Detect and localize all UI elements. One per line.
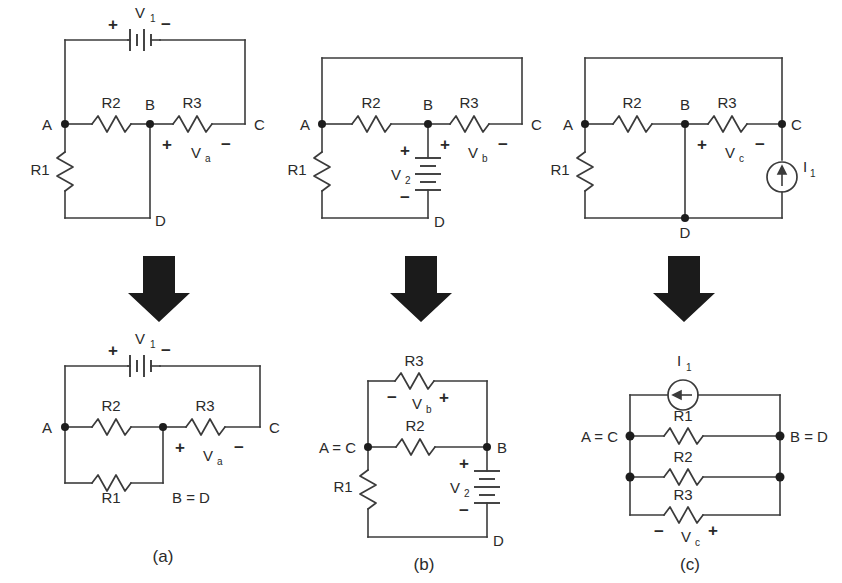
resistor-r1-label-after-b: R1 — [333, 478, 352, 495]
vc-minus-sign-after: − — [654, 522, 664, 541]
node-label-d-c: D — [680, 224, 691, 241]
battery-v1-label-after: V — [135, 330, 145, 347]
vb-subscript: b — [482, 153, 488, 164]
battery-v2-label: V — [391, 166, 401, 183]
node-label-c-after: C — [269, 419, 280, 436]
node-ac-dot-after-c — [626, 432, 635, 441]
node-a-dot-c — [581, 120, 589, 128]
vb-plus-sign: + — [440, 135, 450, 154]
resistor-r1-label-after-c: R1 — [673, 407, 692, 424]
node-b-dot-after-b — [483, 443, 491, 451]
node-label-c-b: C — [531, 116, 542, 133]
node-bd-dot-after — [159, 423, 167, 431]
resistor-r3-label-after: R3 — [195, 397, 214, 414]
node-label-b: B — [145, 96, 155, 113]
node-label-bd-after: B = D — [172, 489, 210, 506]
vb-label-after: V — [412, 395, 422, 412]
circuit-figure-canvas: + V 1 − A B C D R2 R3 R1 — [0, 0, 842, 583]
battery-v1-minus-sign-after: − — [161, 341, 171, 360]
resistor-r2-label-c: R2 — [622, 94, 641, 111]
va-plus-sign: + — [162, 135, 172, 154]
vc-subscript: c — [739, 153, 744, 164]
node-a-dot — [61, 120, 69, 128]
resistor-r2-label-after: R2 — [101, 397, 120, 414]
node-bd-dot-after-c — [776, 432, 785, 441]
node-b-dot-c — [681, 120, 689, 128]
current-source-i1-symbol — [767, 162, 797, 192]
panel-label-c: (c) — [680, 555, 700, 574]
resistor-r2-label-after-c: R2 — [673, 448, 692, 465]
node-bd-dot2-after-c — [776, 473, 785, 482]
node-label-a-c: A — [563, 116, 573, 133]
va-minus-sign: − — [221, 135, 231, 154]
battery-v2-label-after: V — [450, 479, 460, 496]
va-subscript-after: a — [217, 456, 223, 467]
node-label-ac-after-b: A = C — [319, 439, 356, 456]
node-label-ac-after-c: A = C — [581, 428, 618, 445]
resistor-r3-label: R3 — [182, 94, 201, 111]
vc-label: V — [725, 144, 735, 161]
battery-v2-minus-sign-after: − — [459, 501, 469, 520]
current-source-i1-subscript: 1 — [810, 168, 816, 179]
panel-label-b: (b) — [414, 555, 435, 574]
resistor-r1-label-c: R1 — [550, 161, 569, 178]
node-label-c: C — [254, 116, 265, 133]
battery-v1-minus-sign: − — [161, 15, 171, 34]
battery-v1-label: V — [135, 4, 145, 21]
va-subscript: a — [205, 153, 211, 164]
vc-subscript-after: c — [695, 537, 700, 548]
vc-plus-sign: + — [697, 135, 707, 154]
node-label-b-c: B — [680, 96, 690, 113]
vb-subscript-after: b — [426, 404, 432, 415]
battery-v1-subscript: 1 — [150, 13, 156, 24]
current-source-i1-label-after: I — [677, 352, 681, 369]
node-a-dot-after — [61, 423, 69, 431]
current-source-i1-symbol-after — [668, 380, 698, 410]
resistor-r2-label-b: R2 — [361, 94, 380, 111]
node-c-dot-c — [778, 120, 786, 128]
node-b-dot-b — [424, 120, 432, 128]
node-d-dot-c — [681, 214, 689, 222]
battery-v1-plus-sign: + — [108, 15, 118, 34]
va-label-after: V — [203, 447, 213, 464]
battery-v2-subscript-after: 2 — [464, 488, 470, 499]
node-label-a-after: A — [42, 419, 52, 436]
resistor-r1-label-b: R1 — [287, 161, 306, 178]
resistor-r3-label-c: R3 — [717, 94, 736, 111]
current-source-i1-subscript-after: 1 — [686, 362, 692, 373]
vc-label-after: V — [681, 528, 691, 545]
battery-v2-plus-sign-after: + — [459, 454, 469, 473]
vb-plus-sign-after: + — [439, 388, 449, 407]
node-label-bd-after-c: B = D — [790, 428, 828, 445]
va-label: V — [191, 144, 201, 161]
battery-v1-plus-sign-after: + — [108, 341, 118, 360]
vc-plus-sign-after: + — [708, 521, 718, 540]
vc-minus-sign: − — [755, 135, 765, 154]
node-label-b-after-b: B — [497, 439, 507, 456]
node-label-b-b: B — [423, 96, 433, 113]
va-plus-sign-after: + — [175, 438, 185, 457]
node-b-dot — [146, 120, 154, 128]
circuit-figure: + V 1 − A B C D R2 R3 R1 — [0, 0, 842, 583]
node-label-d: D — [155, 212, 166, 229]
battery-v2-plus-sign: + — [400, 141, 410, 160]
node-a-dot-b — [318, 120, 326, 128]
current-source-i1-label: I — [803, 158, 807, 175]
battery-v1-subscript-after: 1 — [150, 339, 156, 350]
battery-v2-minus-sign: − — [400, 188, 410, 207]
resistor-r1-label: R1 — [30, 161, 49, 178]
resistor-r3-label-after-c: R3 — [673, 486, 692, 503]
node-label-c-c: C — [791, 116, 802, 133]
vb-label: V — [468, 144, 478, 161]
resistor-r1-label-after: R1 — [101, 489, 120, 506]
node-ac-dot-after-b — [364, 443, 372, 451]
resistor-r2-label-after-b: R2 — [405, 417, 424, 434]
vb-minus-sign-after: − — [387, 388, 397, 407]
node-label-a-b: A — [300, 116, 310, 133]
resistor-r3-label-after-b: R3 — [404, 352, 423, 369]
va-minus-sign-after: − — [234, 438, 244, 457]
vb-minus-sign: − — [498, 135, 508, 154]
node-label-a: A — [42, 116, 52, 133]
node-label-d-after-b: D — [493, 532, 504, 549]
resistor-r2-label: R2 — [101, 94, 120, 111]
